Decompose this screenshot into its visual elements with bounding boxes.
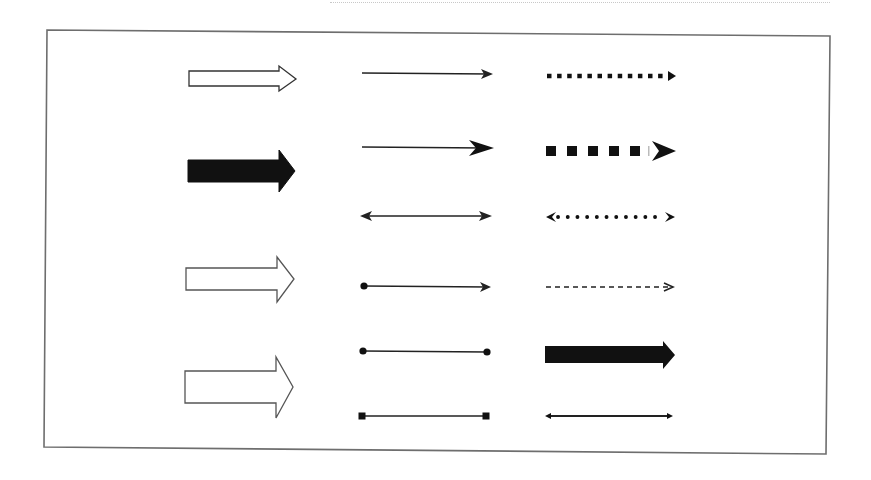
arrow-diagram-canvas bbox=[0, 0, 871, 480]
diagram-frame bbox=[44, 30, 830, 454]
